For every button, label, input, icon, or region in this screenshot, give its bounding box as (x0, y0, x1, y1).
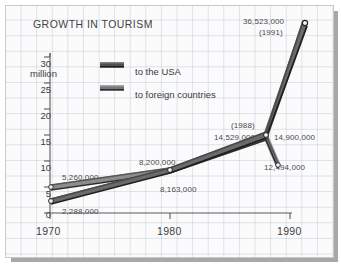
foreign-point-1970 (49, 185, 54, 190)
usa-point-1970 (49, 199, 54, 204)
series-to-the-usa (49, 20, 308, 204)
plot-area-svg (0, 0, 341, 266)
legend-swatches (100, 62, 124, 91)
legend-swatch-to-foreign-countries-top (100, 85, 124, 87)
usa-point-1980 (168, 168, 173, 173)
legend-swatch-to-the-usa-bottom (100, 66, 124, 68)
legend-swatch-to-foreign-countries-bottom (100, 89, 124, 91)
usa-point-1988 (264, 133, 269, 138)
legend-swatch-to-the-usa-top (100, 62, 124, 64)
x-axis-ticks (50, 213, 290, 219)
usa-line-shadow (51, 26, 307, 204)
tourism-growth-chart-figure: GROWTH IN TOURISM 30 million 25 20 15 10… (0, 0, 341, 266)
y-axis-ticks (44, 57, 50, 213)
usa-line-band (51, 23, 305, 201)
foreign-point-1989 (276, 163, 281, 168)
usa-point-1991 (302, 20, 307, 25)
